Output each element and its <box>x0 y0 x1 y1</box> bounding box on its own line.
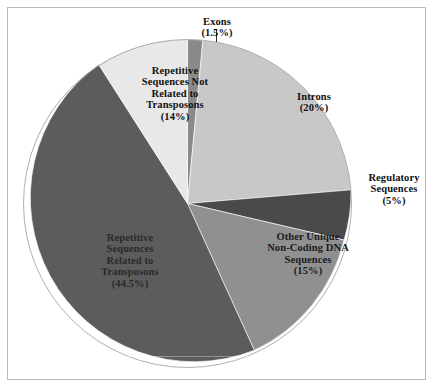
pie-label-exons: Exons (1.5%) <box>155 4 279 50</box>
pie-label-repetitive-sequences-not-related-to-transposons: Repetitive Sequences Not Related to Tran… <box>110 53 240 134</box>
pie-label-repetitive-sequences-related-to-transposons: Repetitive Sequences Related to Transpos… <box>78 220 182 301</box>
pie-label-introns: Introns (20%) <box>258 79 370 125</box>
pie-label-regulatory-sequences-value: (5%) <box>356 195 432 207</box>
pie-label-introns-value: (20%) <box>258 102 370 114</box>
pie-label-other-unique-non-coding-dna-sequences: Other Unique Non-Coding DNA Sequences (1… <box>242 219 374 289</box>
pie-label-repetitive-sequences-not-related-to-transposons-text: Repetitive Sequences Not Related to Tran… <box>142 65 208 111</box>
pie-label-other-unique-non-coding-dna-sequences-text: Other Unique Non-Coding DNA Sequences <box>267 231 349 265</box>
pie-label-exons-value: (1.5%) <box>155 27 279 39</box>
pie-label-regulatory-sequences-text: Regulatory Sequences <box>368 172 419 195</box>
pie-label-other-unique-non-coding-dna-sequences-value: (15%) <box>242 265 374 277</box>
pie-label-repetitive-sequences-related-to-transposons-text: Repetitive Sequences Related to Transpos… <box>101 232 159 278</box>
pie-label-repetitive-sequences-related-to-transposons-value: (44.5%) <box>78 278 182 290</box>
pie-label-repetitive-sequences-not-related-to-transposons-value: (14%) <box>110 111 240 123</box>
pie-label-regulatory-sequences: Regulatory Sequences (5%) <box>356 160 432 218</box>
pie-label-introns-text: Introns <box>297 91 331 102</box>
pie-chart-figure: Exons (1.5%) Introns (20%) Regulatory Se… <box>0 0 434 388</box>
pie-label-exons-text: Exons <box>203 16 231 27</box>
